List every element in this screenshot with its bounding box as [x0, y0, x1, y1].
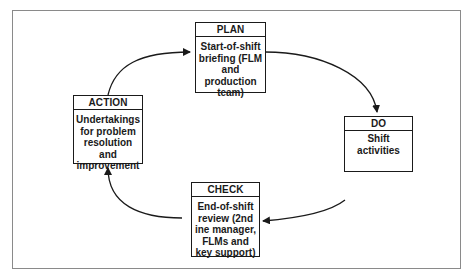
action-box: ACTION Undertakings for problem resoluti…: [73, 95, 143, 164]
plan-title: PLAN: [196, 23, 265, 37]
check-title: CHECK: [192, 183, 259, 197]
do-text: Shift activities: [345, 131, 412, 159]
action-text: Undertakings for problem resolution and …: [74, 110, 142, 175]
check-box: CHECK End-of-shift review (2nd ine manag…: [191, 182, 260, 257]
arrow-plan-to-do: [265, 52, 377, 112]
action-title: ACTION: [74, 96, 142, 110]
arrow-check-to-action: [108, 168, 182, 218]
check-text: End-of-shift review (2nd ine manager, FL…: [192, 197, 259, 262]
arrow-action-to-plan: [108, 52, 190, 95]
plan-text: Start-of-shift briefing (FLM and product…: [196, 37, 265, 102]
plan-box: PLAN Start-of-shift briefing (FLM and pr…: [195, 22, 266, 93]
do-box: DO Shift activities: [344, 116, 413, 172]
do-title: DO: [345, 117, 412, 131]
arrow-do-to-check: [263, 200, 345, 221]
